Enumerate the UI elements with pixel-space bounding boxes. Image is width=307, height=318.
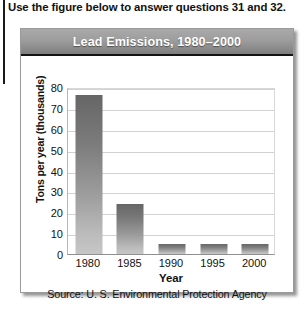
y-axis-tick-label: 0 xyxy=(43,249,63,261)
x-axis-tick-label: 1980 xyxy=(67,257,109,269)
bar-series xyxy=(68,89,274,254)
bar-slot xyxy=(68,89,110,254)
y-axis-tick-label: 60 xyxy=(43,124,63,136)
source-note: Source: U. S. Environmental Protection A… xyxy=(21,288,293,300)
bar-chart: Tons per year (thousands) 80706050403020… xyxy=(21,56,293,294)
bar-2000 xyxy=(242,244,269,254)
y-axis-tick-label: 50 xyxy=(43,145,63,157)
figure-title-bar: Lead Emissions, 1980–2000 xyxy=(21,29,293,56)
question-prompt: Use the figure below to answer questions… xyxy=(8,1,304,13)
y-axis-tick-label: 70 xyxy=(43,103,63,115)
y-axis-tick-label: 10 xyxy=(43,228,63,240)
bar-slot xyxy=(193,89,235,254)
figure-card: Lead Emissions, 1980–2000 Tons per year … xyxy=(20,28,294,293)
y-axis-tick-label: 30 xyxy=(43,186,63,198)
bar-1990 xyxy=(158,244,185,254)
bar-slot xyxy=(234,89,276,254)
bar-1980 xyxy=(75,95,102,254)
bar-slot xyxy=(110,89,152,254)
x-axis-tick-label: 1985 xyxy=(109,257,151,269)
bar-1995 xyxy=(200,244,227,254)
y-axis-tick-label: 80 xyxy=(43,82,63,94)
x-axis-tick-label: 1990 xyxy=(150,257,192,269)
x-axis-title: Year xyxy=(67,272,275,284)
bar-slot xyxy=(151,89,193,254)
x-axis-tick-label: 2000 xyxy=(233,257,275,269)
page-edge-artifact xyxy=(3,0,5,84)
y-axis-tick-label: 20 xyxy=(43,207,63,219)
bar-1985 xyxy=(117,204,144,254)
y-axis-tick-labels: 80706050403020100 xyxy=(43,88,63,255)
y-axis-tick-label: 40 xyxy=(43,166,63,178)
plot-area xyxy=(67,88,275,255)
x-axis-tick-label: 1995 xyxy=(192,257,234,269)
figure-title: Lead Emissions, 1980–2000 xyxy=(73,35,241,49)
x-axis-tick-labels: 19801985199019952000 xyxy=(67,257,275,273)
